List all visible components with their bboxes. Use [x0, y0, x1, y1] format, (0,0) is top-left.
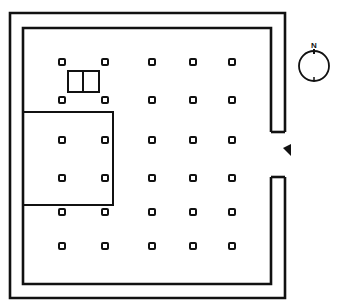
column — [59, 243, 65, 249]
column — [190, 209, 196, 215]
column — [102, 59, 108, 65]
column — [190, 137, 196, 143]
compass-label: N — [311, 41, 317, 50]
column — [149, 209, 155, 215]
column — [59, 137, 65, 143]
west-annex-room — [23, 112, 113, 205]
column — [102, 137, 108, 143]
column — [229, 243, 235, 249]
column — [149, 97, 155, 103]
column — [59, 97, 65, 103]
column — [59, 175, 65, 181]
column — [59, 209, 65, 215]
column — [229, 97, 235, 103]
column — [149, 137, 155, 143]
outer-wall — [10, 13, 285, 298]
column — [190, 97, 196, 103]
column — [229, 137, 235, 143]
floor-plan: N — [0, 0, 338, 302]
column — [190, 175, 196, 181]
column — [229, 175, 235, 181]
north-compass-icon: N — [299, 41, 329, 81]
column — [149, 243, 155, 249]
column — [102, 243, 108, 249]
entrance-arrow-icon — [283, 144, 291, 156]
column — [102, 209, 108, 215]
altar-box — [68, 71, 99, 92]
column — [59, 59, 65, 65]
column — [229, 59, 235, 65]
column — [190, 243, 196, 249]
column-grid — [59, 59, 235, 249]
column — [229, 209, 235, 215]
column — [149, 175, 155, 181]
column — [102, 175, 108, 181]
column — [102, 97, 108, 103]
column — [190, 59, 196, 65]
column — [149, 59, 155, 65]
